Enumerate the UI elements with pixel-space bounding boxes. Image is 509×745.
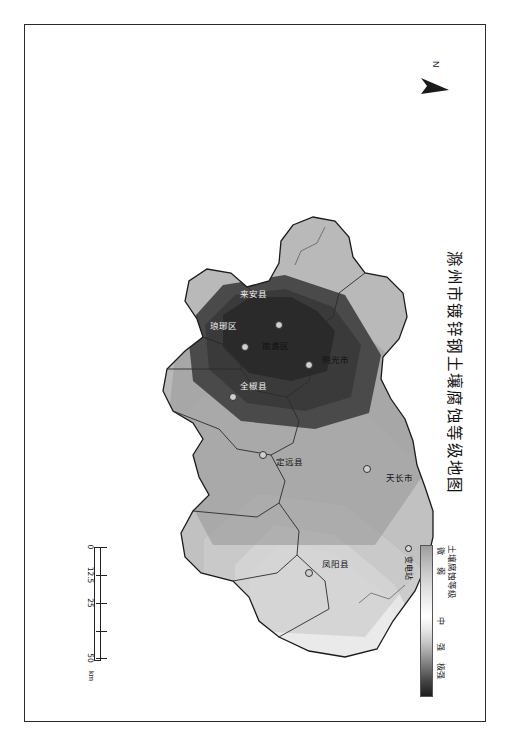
substation-marker [305,569,313,577]
legend-color-ramp [420,545,433,697]
county-label: 定远县 [276,455,303,467]
substation-marker [229,393,237,401]
scale-tick-4 [96,658,107,659]
scale-label-2: 25 [86,598,95,608]
scale-tick-0 [96,547,107,548]
legend-label-1: 弱 [436,567,447,575]
substation-marker [275,321,283,329]
county-label: 来安县 [240,287,267,299]
substation-marker [259,451,267,459]
legend-station-label: 变电站 [404,556,413,580]
legend-label-2: 中 [436,617,447,625]
legend: 土壤腐蚀等级 微 弱 中 强 极强 变电站 [385,545,459,695]
circle-marker-icon [405,545,412,552]
north-arrow: N [417,61,451,107]
scale-bar-track [94,547,101,661]
scale-bar: 0 12.5 25 50 km [83,547,113,659]
scale-label-1: 12.5 [86,567,95,584]
substation-marker [305,361,313,369]
rotated-map-sheet: 天长市明光市来安县琅琊区南谯区全椒县定远县凤阳县 滁州市镀锌钢土壤腐蚀等级地图 … [25,25,485,721]
legend-label-4: 极强 [436,663,447,679]
county-label: 天长市 [386,471,413,483]
north-arrow-label: N [431,61,441,68]
map-frame-border: 天长市明光市来安县琅琊区南谯区全椒县定远县凤阳县 滁州市镀锌钢土壤腐蚀等级地图 … [24,24,486,722]
scale-tick-2 [96,603,107,604]
page-title: 滁州市镀锌钢土壤腐蚀等级地图 [445,251,467,495]
county-label: 琅琊区 [210,319,237,331]
legend-label-0: 微 [436,547,447,555]
north-arrow-icon [417,72,451,102]
scale-label-0: 0 [86,545,95,550]
substation-marker [363,465,371,473]
county-label: 南谯区 [262,339,289,351]
legend-station-entry: 变电站 [404,545,415,580]
scale-label-3: 50 [86,653,95,663]
legend-label-3: 强 [436,643,447,651]
scale-tick-3 [96,631,107,632]
map-page: 天长市明光市来安县琅琊区南谯区全椒县定远县凤阳县 滁州市镀锌钢土壤腐蚀等级地图 … [0,0,509,745]
legend-title: 土壤腐蚀等级 [447,545,459,599]
county-label: 凤阳县 [322,557,349,569]
scale-tick-1 [96,575,107,576]
scale-unit-label: km [87,671,96,681]
county-label: 全椒县 [240,379,267,391]
county-label: 明光市 [322,353,349,365]
substation-marker [241,343,249,351]
